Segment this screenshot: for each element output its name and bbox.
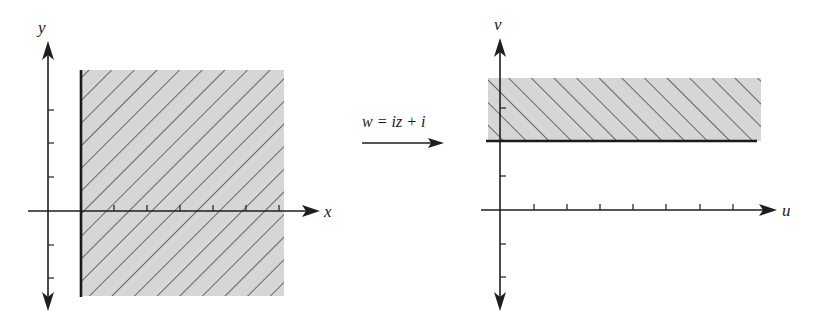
mapping-diagram: x y w = iz + i [0,0,824,323]
y-ticks [48,110,54,278]
u-axis-label: u [782,201,791,220]
mapping-label: w = iz + i [362,113,425,130]
z-plane-plot: x y [28,18,332,311]
shaded-region-z [81,70,284,296]
v-axis-label: v [494,15,502,34]
shaded-region-w [488,78,761,141]
mapping-function: w = iz + i [362,113,444,148]
w-plane-plot: u v [481,15,791,311]
y-axis-label: y [36,18,46,37]
u-ticks [534,204,733,210]
x-axis-label: x [323,202,332,221]
